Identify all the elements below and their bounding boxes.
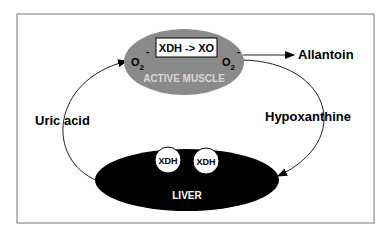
liver-label: LIVER <box>172 190 202 201</box>
liver-ellipse <box>95 149 279 211</box>
enzyme-box-text: XDH -> XO <box>159 42 215 54</box>
xanthine-oxidase-cycle-diagram: XDH -> XO O2 - O2 - ACTIVE MUSCLE XDH XD… <box>0 0 391 235</box>
liver-xdh-2: XDH <box>196 157 215 167</box>
o2-left-charge: - <box>146 46 149 57</box>
active-muscle-label: ACTIVE MUSCLE <box>143 73 225 84</box>
uric-acid-label: Uric acid <box>35 113 90 128</box>
hypoxanthine-label: Hypoxanthine <box>265 109 351 124</box>
allantoin-label: Allantoin <box>298 47 354 62</box>
o2-right-charge: - <box>237 46 240 57</box>
liver-xdh-1: XDH <box>158 156 177 166</box>
